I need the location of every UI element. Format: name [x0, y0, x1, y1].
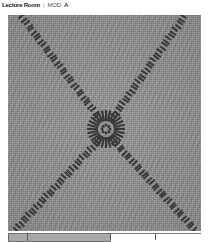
title-suffix-text: A — [64, 2, 68, 9]
dash-mark — [18, 15, 25, 19]
title-sub-text: MOD — [48, 2, 61, 9]
scale-segment[interactable] — [155, 233, 202, 240]
dash-mark — [180, 15, 187, 19]
image-viewport[interactable] — [8, 15, 201, 231]
scale-bar[interactable] — [8, 233, 201, 241]
scale-segment[interactable] — [8, 233, 28, 242]
core-dot — [109, 128, 112, 131]
core-dot — [101, 128, 104, 131]
core-dot — [102, 130, 105, 133]
scale-segment[interactable] — [110, 233, 155, 240]
dash-mark — [105, 110, 107, 121]
core-dot — [102, 125, 105, 128]
core-dot — [107, 125, 110, 128]
dash-marks-group — [13, 15, 198, 231]
pattern-layer — [8, 15, 201, 231]
scale-tick — [110, 233, 111, 240]
title-main-text: Lecture Room — [2, 2, 40, 9]
core-dot — [105, 124, 108, 127]
core-dot — [107, 130, 110, 133]
title-separator: | — [43, 2, 45, 9]
pattern-svg — [8, 15, 201, 231]
dash-mark — [87, 128, 98, 130]
scale-tick — [155, 233, 156, 240]
scale-segment[interactable] — [27, 233, 111, 242]
scale-tick — [27, 233, 28, 240]
dash-mark — [114, 128, 125, 130]
dash-mark — [105, 137, 107, 148]
page-title: Lecture Room | MOD A — [2, 0, 207, 10]
dash-mark — [191, 227, 198, 231]
core-dot — [105, 132, 108, 135]
